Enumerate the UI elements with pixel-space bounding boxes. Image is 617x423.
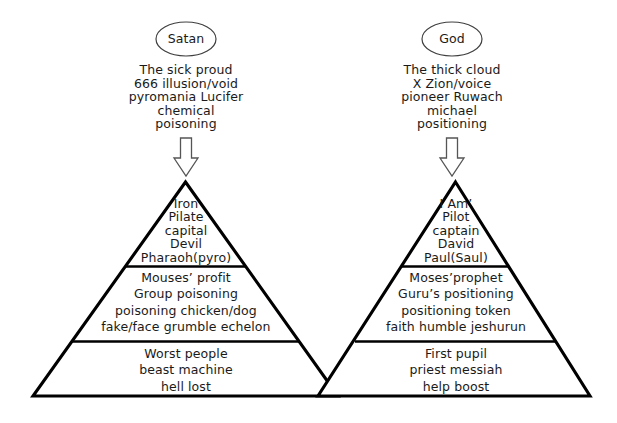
right-header-line-4: michael (352, 104, 552, 118)
left-header-line-3: pyromania Lucifer (86, 90, 286, 104)
right-bubble-label: God (402, 31, 502, 46)
right-header-text: The thick cloud X Zion/voice pioneer Ruw… (352, 63, 552, 131)
left-tier-middle-line-3: poisoning chicken/dog (56, 303, 316, 319)
left-tier-top-line-5: Pharaoh(pyro) (106, 251, 266, 264)
right-tier-middle-line-4: faith humble jeshurun (336, 319, 576, 335)
left-tier-bottom-line-1: Worst people (86, 346, 286, 362)
left-tier-bottom-text: Worst people beast machine hell lost (86, 346, 286, 395)
left-tier-middle-line-1: Mouses’ profit (56, 270, 316, 286)
left-tier-middle-text: Mouses’ profit Group poisoning poisoning… (56, 270, 316, 336)
left-tier-bottom-line-3: hell lost (86, 379, 286, 395)
left-tier-top-line-3: capital (106, 224, 266, 237)
right-tier-bottom-line-3: help boost (356, 379, 556, 395)
left-tier-top-text: Iron Pilate capital Devil Pharaoh(pyro) (106, 197, 266, 264)
right-header-line-5: positioning (352, 117, 552, 131)
right-header-line-1: The thick cloud (352, 63, 552, 77)
right-tier-middle-line-3: positioning token (336, 303, 576, 319)
right-tier-top-line-1: I Am’ (376, 197, 536, 210)
right-down-arrow-icon (440, 138, 464, 176)
left-tier-bottom-line-2: beast machine (86, 362, 286, 378)
right-tier-bottom-text: First pupil priest messiah help boost (356, 346, 556, 395)
right-tier-middle-line-1: Moses’prophet (336, 270, 576, 286)
right-tier-top-line-5: Paul(Saul) (376, 251, 536, 264)
left-tier-top-line-2: Pilate (106, 210, 266, 223)
right-tier-bottom-line-1: First pupil (356, 346, 556, 362)
right-tier-top-text: I Am’ Pilot captain David Paul(Saul) (376, 197, 536, 264)
right-tier-middle-line-2: Guru’s positioning (336, 286, 576, 302)
left-header-line-1: The sick proud (86, 63, 286, 77)
left-bubble-label: Satan (136, 31, 236, 46)
left-tier-top-line-1: Iron (106, 197, 266, 210)
left-tier-top-line-4: Devil (106, 237, 266, 250)
right-tier-middle-text: Moses’prophet Guru’s positioning positio… (336, 270, 576, 336)
diagram-canvas: Satan The sick proud 666 illusion/void p… (0, 0, 617, 423)
right-tier-top-line-4: David (376, 237, 536, 250)
left-down-arrow-icon (174, 138, 198, 176)
left-header-line-2: 666 illusion/void (86, 77, 286, 91)
right-header-line-3: pioneer Ruwach (352, 90, 552, 104)
left-tier-middle-line-2: Group poisoning (56, 286, 316, 302)
right-header-line-2: X Zion/voice (352, 77, 552, 91)
left-header-text: The sick proud 666 illusion/void pyroman… (86, 63, 286, 131)
left-tier-middle-line-4: fake/face grumble echelon (56, 319, 316, 335)
right-tier-bottom-line-2: priest messiah (356, 362, 556, 378)
right-tier-top-line-2: Pilot (376, 210, 536, 223)
right-tier-top-line-3: captain (376, 224, 536, 237)
left-header-line-5: poisoning (86, 117, 286, 131)
left-header-line-4: chemical (86, 104, 286, 118)
